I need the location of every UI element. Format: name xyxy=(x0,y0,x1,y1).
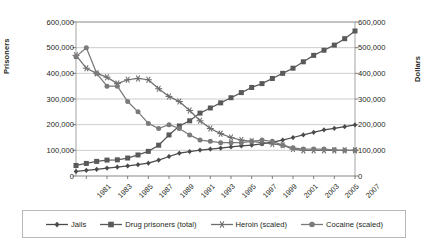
data-point xyxy=(322,127,327,132)
y2-axis-tick-label: 300,000 xyxy=(358,95,410,104)
data-point xyxy=(270,76,275,81)
data-point xyxy=(322,147,327,152)
data-point xyxy=(239,90,244,95)
data-point xyxy=(146,161,151,166)
data-point xyxy=(309,221,315,227)
data-point xyxy=(156,157,161,162)
data-point xyxy=(218,145,223,150)
data-point xyxy=(115,157,120,162)
y2-axis-tick-label: 0 xyxy=(358,172,410,181)
y-axis-tick-label: 100,000 xyxy=(22,146,74,155)
data-point xyxy=(136,109,141,114)
data-point xyxy=(217,131,224,137)
data-point xyxy=(311,130,316,135)
data-point xyxy=(332,126,337,131)
legend-label: Drug prisoners (total) xyxy=(125,220,196,229)
data-point xyxy=(136,162,141,167)
circle-marker-icon xyxy=(300,219,324,230)
data-point xyxy=(125,99,130,104)
data-point xyxy=(198,138,203,143)
data-point xyxy=(270,139,275,144)
data-point xyxy=(94,167,99,172)
data-point xyxy=(187,132,192,137)
data-point xyxy=(156,143,161,148)
diamond-marker-icon xyxy=(45,219,69,230)
data-point xyxy=(218,221,226,228)
y2-axis-tick-label: 500,000 xyxy=(358,43,410,52)
data-point xyxy=(54,221,59,227)
data-point xyxy=(74,54,79,59)
y2-axis-tick-label: 400,000 xyxy=(358,69,410,78)
y-axis-tick-label: 500,000 xyxy=(22,43,74,52)
data-point xyxy=(84,45,89,50)
data-point xyxy=(146,149,151,154)
chart-container: Prisoners Dollars JailsDrug prisoners (t… xyxy=(0,0,426,243)
y2-axis-tick-label: 600,000 xyxy=(358,18,410,27)
square-marker-icon xyxy=(99,219,123,230)
data-point xyxy=(260,81,265,86)
data-point xyxy=(301,147,306,152)
data-point xyxy=(301,59,306,64)
data-point xyxy=(332,147,337,152)
data-point xyxy=(301,132,306,137)
y2-axis-tick-label: 100,000 xyxy=(358,146,410,155)
data-point xyxy=(177,151,182,156)
legend-item-jails[interactable]: Jails xyxy=(45,219,86,230)
data-point xyxy=(218,140,223,145)
data-point xyxy=(322,48,327,53)
data-point xyxy=(198,147,203,152)
data-point xyxy=(74,169,79,174)
y-axis-tick-label: 600,000 xyxy=(22,18,74,27)
data-point xyxy=(84,161,89,166)
legend-item-heroin-scaled[interactable]: Heroin (scaled) xyxy=(210,219,288,230)
data-point xyxy=(280,137,285,142)
data-point xyxy=(228,134,235,140)
data-point xyxy=(115,84,120,89)
data-point xyxy=(187,118,192,123)
data-point xyxy=(342,148,347,153)
data-point xyxy=(108,221,114,227)
data-point xyxy=(105,84,110,89)
data-point xyxy=(124,77,131,83)
data-point xyxy=(311,53,316,58)
data-point xyxy=(249,85,254,90)
series-line xyxy=(76,55,355,150)
data-point xyxy=(311,147,316,152)
legend-item-drug-prisoners-total[interactable]: Drug prisoners (total) xyxy=(99,219,196,230)
data-point xyxy=(239,140,244,145)
data-point xyxy=(353,122,358,127)
data-point xyxy=(115,164,120,169)
data-point xyxy=(146,121,151,126)
data-point xyxy=(187,149,192,154)
data-point xyxy=(167,132,172,137)
data-point xyxy=(249,139,254,144)
data-point xyxy=(291,66,296,71)
star-marker-icon xyxy=(210,219,234,230)
chart-legend: JailsDrug prisoners (total)Heroin (scale… xyxy=(22,210,406,238)
data-point xyxy=(125,156,130,161)
data-point xyxy=(208,146,213,151)
data-point xyxy=(177,126,182,131)
data-point xyxy=(291,135,296,140)
legend-label: Heroin (scaled) xyxy=(236,220,288,229)
y-axis-tick-label: 200,000 xyxy=(22,120,74,129)
data-point xyxy=(74,163,79,168)
data-point xyxy=(280,71,285,76)
data-point xyxy=(167,122,172,127)
data-point xyxy=(167,154,172,159)
data-point xyxy=(84,168,89,173)
data-point xyxy=(94,71,99,76)
data-point xyxy=(208,139,213,144)
data-point xyxy=(135,75,142,81)
data-point xyxy=(198,111,203,116)
data-point xyxy=(280,143,285,148)
data-point xyxy=(156,126,161,131)
y-axis-tick-label: 400,000 xyxy=(22,69,74,78)
data-point xyxy=(105,165,110,170)
data-point xyxy=(342,36,347,41)
data-point xyxy=(136,152,141,157)
data-point xyxy=(229,144,234,149)
legend-item-cocaine-scaled[interactable]: Cocaine (scaled) xyxy=(300,219,383,230)
y-axis-tick-label: 300,000 xyxy=(22,95,74,104)
legend-label: Cocaine (scaled) xyxy=(326,220,383,229)
